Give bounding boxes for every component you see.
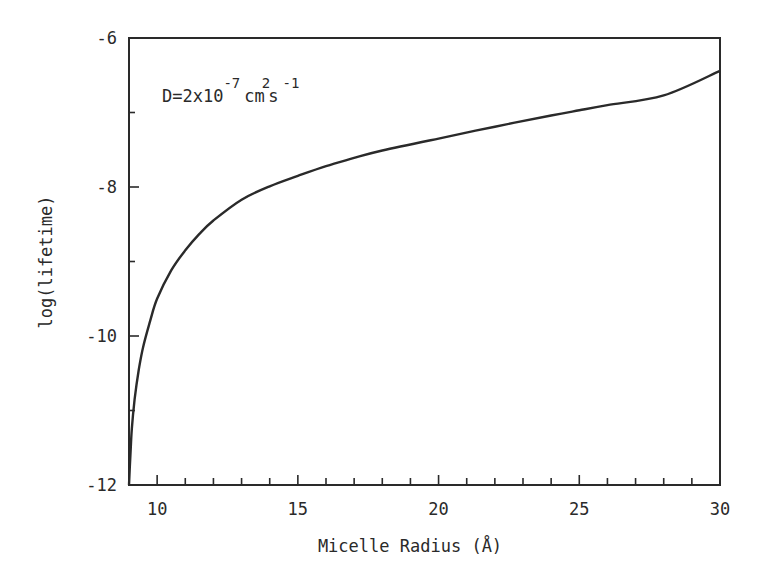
x-tick-label: 25 xyxy=(569,499,589,519)
line-chart: 1015202530 -6-8-10-12 D=2x10-7cm2s-1 Mic… xyxy=(0,0,769,573)
y-tick-label: -10 xyxy=(86,326,117,346)
annotation-label: D=2x10-7cm2s-1 xyxy=(162,75,299,106)
y-tick-labels: -6-8-10-12 xyxy=(86,28,117,495)
x-tick-label: 30 xyxy=(710,499,730,519)
y-tick-label: -8 xyxy=(97,177,117,197)
x-tick-label: 20 xyxy=(428,499,448,519)
x-tick-labels: 1015202530 xyxy=(147,499,730,519)
x-axis-title: Micelle Radius (Å) xyxy=(318,535,502,556)
data-line xyxy=(129,71,720,485)
y-tick-label: -6 xyxy=(97,28,117,48)
x-tick-label: 10 xyxy=(147,499,167,519)
y-tick-label: -12 xyxy=(86,475,117,495)
y-axis-title: log(lifetime) xyxy=(36,195,56,328)
x-tick-label: 15 xyxy=(288,499,308,519)
